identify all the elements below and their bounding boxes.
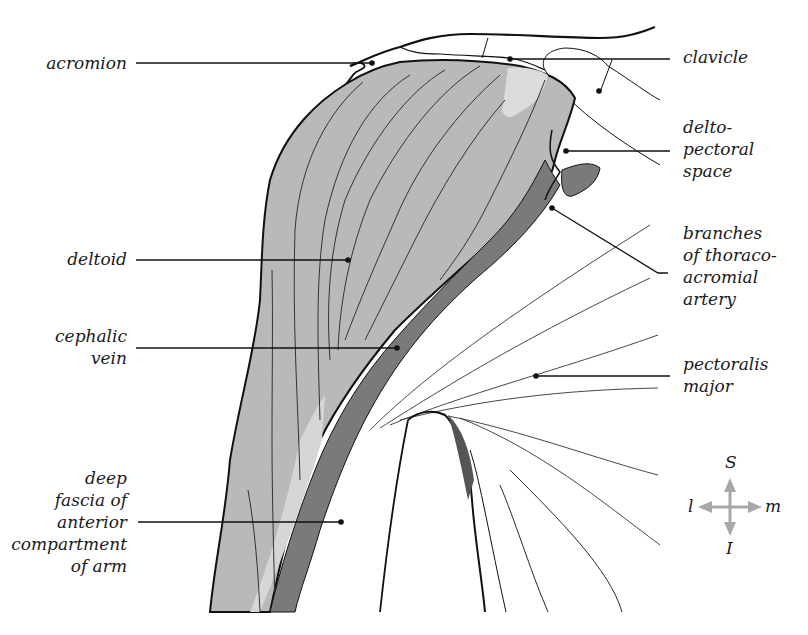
compass-medial: m	[765, 496, 781, 516]
label-acromion: acromion	[46, 52, 127, 74]
anatomy-figure: acromion clavicle delto- pectoral space …	[0, 0, 808, 635]
thoracoacromial-artery-branch	[562, 164, 600, 196]
label-deep-fascia: deep fascia of anterior compartment of a…	[11, 467, 127, 577]
compass-lateral: l	[688, 496, 693, 516]
arm-outline	[380, 412, 622, 612]
compass-superior: S	[725, 452, 737, 472]
compass-inferior: I	[726, 538, 733, 558]
label-cephalic-vein: cephalic vein	[55, 325, 127, 369]
label-branches-thoracoacromial-artery: branches of thoraco- acromial artery	[683, 222, 777, 310]
arm-shading	[448, 415, 474, 500]
label-deltoid: deltoid	[67, 248, 127, 270]
label-deltopectoral-space: delto- pectoral space	[683, 116, 754, 182]
orientation-compass-arrows	[698, 478, 762, 536]
deltoid-muscle	[210, 60, 575, 612]
label-pectoralis-major: pectoralis major	[683, 353, 768, 397]
label-clavicle: clavicle	[683, 46, 748, 68]
